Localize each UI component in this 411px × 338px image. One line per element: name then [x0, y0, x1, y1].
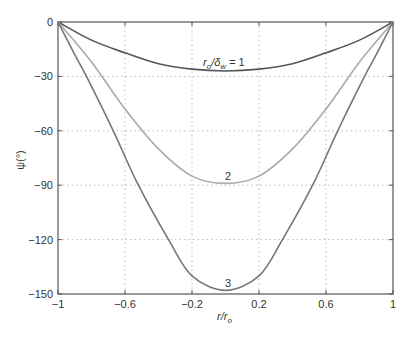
x-tick-label: −0.2 [181, 298, 203, 310]
y-axis-label: ψ(°) [14, 150, 26, 170]
x-tick-label: −0.6 [114, 298, 136, 310]
y-tick-label: 0 [47, 16, 53, 28]
y-tick-label: −60 [34, 125, 53, 137]
ann-curve-1: ro/δw = 1 [203, 56, 245, 71]
x-axis-label: r/ro [217, 310, 232, 325]
x-tick-label: 0.6 [318, 298, 333, 310]
ann-curve-2: 2 [225, 170, 231, 182]
chart: −1−0.6−0.20.20.610−30−60−90−120−150 ro/δ… [0, 0, 411, 338]
y-tick-label: −150 [28, 288, 53, 300]
x-tick-label: 0.2 [251, 298, 266, 310]
y-tick-label: −30 [34, 70, 53, 82]
x-tick-label: 1 [390, 298, 396, 310]
x-tick-label: −1 [52, 298, 65, 310]
y-tick-label: −120 [28, 234, 53, 246]
y-tick-label: −90 [34, 179, 53, 191]
ann-curve-3: 3 [225, 277, 231, 289]
